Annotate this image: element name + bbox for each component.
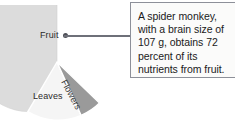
callout-box: A spider monkey, with a brain size of 10…	[130, 2, 235, 78]
pie-label-fruit: Fruit	[40, 30, 59, 40]
leader-line	[64, 35, 132, 37]
figure-container: Fruit Leaves Flowers A spider monkey, wi…	[0, 0, 235, 123]
callout-text: A spider monkey, with a brain size of 10…	[131, 3, 235, 76]
pie-chart-svg	[0, 5, 115, 121]
pie-chart	[0, 5, 115, 121]
pie-label-leaves: Leaves	[33, 91, 63, 101]
